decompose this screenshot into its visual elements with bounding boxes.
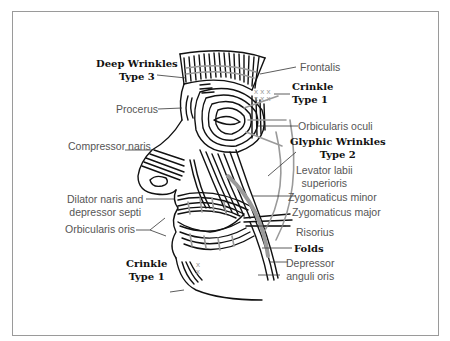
crinkle-upper-marks-row2: x x x (254, 94, 270, 103)
label-deep-wrinkles-type3: Deep Wrinkles Type 3 (96, 58, 178, 83)
label-crinkle-type1-upper: Crinkle Type 1 (292, 81, 333, 106)
label-compressor-naris: Compressor naris (68, 140, 151, 153)
procerus-muscle (180, 84, 193, 120)
label-procerus: Procerus (116, 103, 158, 116)
label-orbicularis-oculi: Orbicularis oculi (298, 120, 373, 133)
crinkle-lower-mark-2: x (196, 267, 200, 276)
label-zygomaticus-major: Zygomaticus major (292, 206, 381, 219)
label-glyphic-wrinkles-type2: Glyphic Wrinkles Type 2 (290, 136, 386, 161)
label-folds: Folds (294, 243, 324, 256)
label-frontalis: Frontalis (300, 61, 340, 74)
label-dilator-naris: Dilator naris and depressor septi (67, 193, 143, 218)
label-depressor-anguli-oris: Depressor anguli oris (286, 257, 334, 282)
label-zygomaticus-minor: Zygomaticus minor (288, 191, 377, 204)
label-risorius: Risorius (296, 226, 334, 239)
label-orbicularis-oris: Orbicularis oris (65, 223, 135, 236)
nose (138, 120, 184, 195)
chin-jaw (176, 258, 262, 300)
face-muscle-drawing: x x x x x x x x (0, 0, 450, 341)
label-levator-labii-superioris: Levator labii superioris (296, 164, 353, 189)
label-crinkle-type1-lower: Crinkle Type 1 (126, 258, 167, 283)
zygomatic-arc-inner (264, 132, 281, 232)
